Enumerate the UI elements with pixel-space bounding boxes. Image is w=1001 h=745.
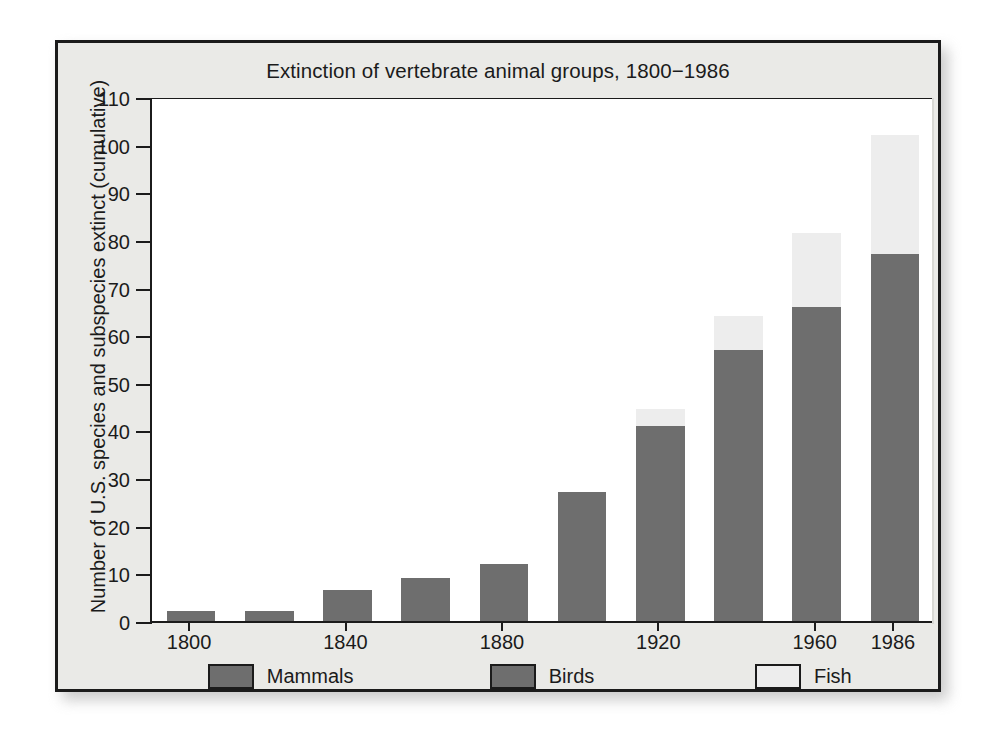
y-axis-tick [136,431,152,433]
bar-segment-mammals [480,564,528,621]
y-axis-tick [136,241,152,243]
y-axis-tick [136,193,152,195]
bar-segment-mammals [167,611,215,621]
bar-1840[interactable] [323,590,371,621]
bar-segment-mammals [871,254,919,621]
x-axis-tick-label: 1880 [442,631,562,654]
y-axis-tick-label: 60 [58,326,130,349]
x-axis-tick [188,623,190,631]
x-axis-tick [892,623,894,631]
legend-item-birds[interactable]: Birds [411,664,672,689]
x-axis-tick-label: 1800 [129,631,249,654]
x-axis-tick [657,623,659,631]
y-axis-tick-label: 70 [58,279,130,302]
y-axis-tick [136,289,152,291]
legend-swatch-fish [755,664,801,689]
legend-label-fish: Fish [814,665,852,688]
legend-label-birds: Birds [549,665,595,688]
x-axis-tick [345,623,347,631]
legend-swatch-birds [490,664,536,689]
y-axis-tick [136,98,152,100]
y-axis-tick-label: 80 [58,231,130,254]
bar-segment-mammals [792,307,840,621]
y-axis-tick-label: 100 [58,136,130,159]
y-axis-tick [136,384,152,386]
bar-segment-mammals [714,350,762,622]
legend-label-mammals: Mammals [267,665,354,688]
bar-segment-fish [714,316,762,349]
bar-segment-mammals [636,426,684,621]
bar-segment-fish [871,135,919,254]
bar-segment-mammals [401,578,449,621]
y-axis-tick-label: 40 [58,421,130,444]
bar-1800[interactable] [167,611,215,621]
y-axis-tick [136,479,152,481]
bar-1820[interactable] [245,611,293,621]
y-axis-tick [136,527,152,529]
x-axis-tick [814,623,816,631]
bar-segment-mammals [323,590,371,621]
plot-area [150,99,932,623]
y-axis-tick-label: 30 [58,469,130,492]
y-axis-tick [136,622,152,624]
bar-segment-fish [792,233,840,307]
y-axis-tick-label: 50 [58,374,130,397]
bar-1960[interactable] [792,233,840,621]
y-axis-tick-label: 110 [58,88,130,111]
x-axis-tick [501,623,503,631]
bar-1900[interactable] [558,492,606,621]
bar-1940[interactable] [714,316,762,621]
y-axis-tick [136,336,152,338]
legend-item-fish[interactable]: Fish [673,664,934,689]
bar-segment-mammals [245,611,293,621]
y-axis-tick-label: 0 [58,612,130,635]
legend-item-mammals[interactable]: Mammals [150,664,411,689]
x-axis-tick-label: 1840 [286,631,406,654]
bar-segment-mammals [558,492,606,621]
y-axis-tick-label: 20 [58,517,130,540]
x-axis-tick-label: 1986 [833,631,953,654]
bar-segment-fish [636,409,684,426]
chart-legend: MammalsBirdsFish [150,663,934,689]
bar-1986[interactable] [871,135,919,621]
legend-swatch-mammals [208,664,254,689]
x-axis-tick-label: 1920 [598,631,718,654]
y-axis-tick [136,146,152,148]
y-axis-tick-label: 10 [58,564,130,587]
chart-title: Extinction of vertebrate animal groups, … [58,59,938,83]
bar-1860[interactable] [401,578,449,621]
plot-right-rule [932,98,934,624]
bar-1880[interactable] [480,564,528,621]
bar-1920[interactable] [636,409,684,621]
chart-figure-panel: Extinction of vertebrate animal groups, … [55,40,941,692]
y-axis-tick [136,574,152,576]
y-axis-tick-label: 90 [58,183,130,206]
